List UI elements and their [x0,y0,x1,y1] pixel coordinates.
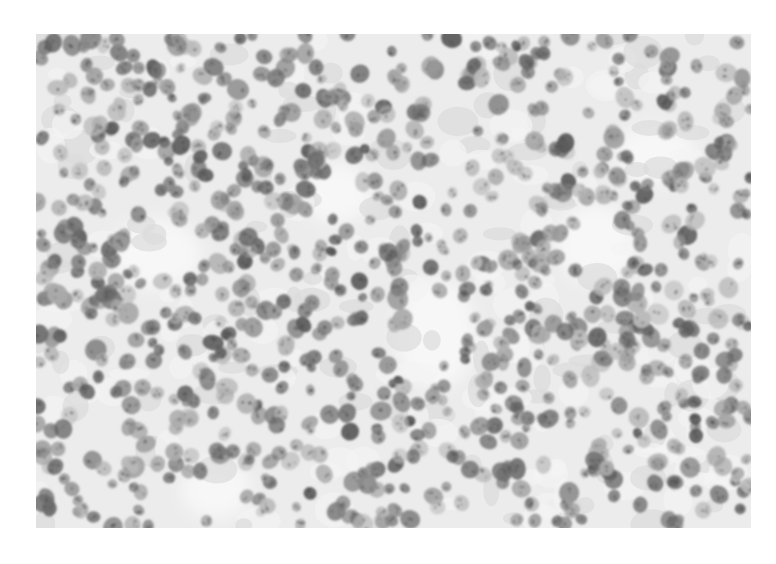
cell-nucleus [650,280,663,294]
cell-nucleus [707,332,720,344]
cell-nucleus [182,447,200,464]
cytoplasm-blotch [625,162,649,177]
cell-nucleus [654,263,668,277]
cell-nucleus [633,234,647,252]
cytoplasm-blotch [511,127,527,140]
cell-nucleus [371,347,386,359]
cell-nucleus [564,406,577,420]
cell-nucleus [708,182,720,195]
cell-nucleus [409,150,428,172]
cell-nucleus [288,266,305,283]
cell-nucleus [290,500,303,513]
cell-nucleus [599,387,615,401]
cell-nucleus [457,424,472,441]
cell-nucleus [274,173,285,186]
cell-nucleus [294,517,307,528]
cell-nucleus [339,34,357,42]
cell-nucleus [305,384,316,397]
cytoplasm-blotch [610,242,632,256]
cell-nucleus [509,431,529,450]
cell-nucleus [582,304,602,324]
cell-nucleus [207,405,220,420]
cell-nucleus [729,35,746,50]
cell-nucleus [451,492,472,514]
cell-nucleus [419,34,435,43]
cell-nucleus [254,47,274,66]
cell-nucleus [447,187,458,199]
cell-nucleus [386,45,398,58]
cell-nucleus [347,62,372,86]
cell-nucleus [744,171,751,184]
cell-nucleus [610,426,624,440]
cell-nucleus [36,190,49,214]
cell-nucleus [719,115,734,128]
cell-nucleus [301,484,319,502]
tissue-canvas [36,34,751,528]
cell-nucleus [94,158,114,178]
cell-nucleus [733,502,746,515]
cell-nucleus [162,472,176,484]
cell-nucleus [216,424,234,443]
cell-nucleus [329,234,342,244]
cell-nucleus [439,480,453,494]
cell-nucleus [420,256,442,278]
cell-nucleus [450,225,470,246]
page [0,0,776,564]
cell-nucleus [99,513,127,528]
cell-nucleus [384,483,395,494]
cytoplasm-blotch [169,356,192,379]
cytoplasm-blotch [533,365,551,393]
cell-nucleus [398,481,412,495]
cell-nucleus [123,515,141,528]
micrograph-image [36,34,751,528]
cell-nucleus [245,97,259,111]
cell-nucleus [36,229,47,239]
cytoplasm-blotch [483,227,517,240]
cell-nucleus [246,34,258,42]
cell-nucleus [215,286,230,302]
cytoplasm-blotch [438,107,479,136]
cell-nucleus [622,443,636,455]
cytoplasm-blotch [339,299,374,313]
cell-nucleus [461,201,480,220]
cell-nucleus [662,278,687,303]
cell-nucleus [107,479,118,489]
cell-nucleus [36,356,46,369]
cell-nucleus [348,269,372,293]
cell-nucleus [299,130,314,145]
cell-nucleus [439,202,452,217]
cell-nucleus [577,405,592,419]
cell-nucleus [580,105,596,121]
cytoplasm-blotch [440,140,467,167]
cell-nucleus [596,146,613,162]
cell-nucleus [142,519,154,528]
cell-nucleus [610,396,629,415]
cell-nucleus [211,140,234,161]
cell-nucleus [282,103,301,122]
cell-nucleus [544,79,559,94]
cytoplasm-blotch [423,330,441,351]
cytoplasm-blotch [685,34,705,46]
cell-nucleus [198,93,212,103]
cell-nucleus [438,34,465,51]
cell-nucleus [245,363,259,377]
cell-nucleus [86,511,101,523]
cell-nucleus [131,503,147,518]
cell-nucleus [617,107,633,123]
cytoplasm-blotch [131,233,167,252]
cell-nucleus [127,332,144,348]
cell-nucleus [368,284,388,304]
cell-nucleus [557,34,583,49]
